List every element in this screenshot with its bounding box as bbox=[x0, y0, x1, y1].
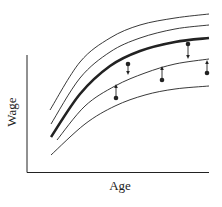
data-dot bbox=[114, 96, 119, 101]
axes bbox=[27, 55, 209, 173]
profile-5-curve bbox=[51, 86, 209, 155]
arrow-down-icon bbox=[126, 71, 130, 75]
observation-point bbox=[160, 66, 165, 82]
x-axis-label: Age bbox=[109, 178, 131, 193]
profile-curves bbox=[50, 14, 209, 155]
y-axis-label: Wage bbox=[4, 97, 19, 126]
observation-point bbox=[126, 62, 131, 75]
observation-point bbox=[186, 42, 191, 59]
data-dot bbox=[205, 71, 210, 76]
arrow-down-icon bbox=[186, 55, 190, 59]
data-dot bbox=[160, 78, 165, 83]
observation-point bbox=[205, 60, 210, 75]
data-dot bbox=[126, 62, 131, 67]
wage-age-chart: Age Wage bbox=[0, 0, 222, 207]
arrow-up-icon bbox=[205, 60, 209, 64]
data-dot bbox=[186, 42, 191, 47]
